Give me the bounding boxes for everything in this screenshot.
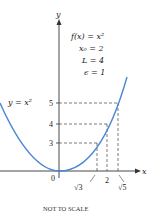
y-tick-3: 3 — [49, 139, 53, 148]
y-tick-5: 5 — [49, 99, 53, 108]
annotation-epsilon: ϵ = 1 — [84, 68, 105, 77]
y-axis-label: y — [55, 10, 61, 19]
sqrt5-leader — [119, 175, 124, 182]
sqrt3-leader — [90, 175, 95, 182]
y-tick-4: 4 — [49, 120, 53, 129]
origin-label: 0 — [51, 174, 55, 183]
x-tick-sqrt5: √5 — [118, 183, 126, 192]
annotation-function: f(x) = x² — [70, 32, 104, 41]
annotation-L: L = 4 — [81, 56, 104, 65]
curve-label: y = x² — [7, 98, 32, 107]
footer-note: NOT TO SCALE — [43, 205, 89, 212]
x-tick-2: 2 — [105, 176, 109, 185]
horizontal-guides — [59, 103, 118, 143]
x-axis-arrow-icon — [135, 169, 141, 174]
x-axis-label: x — [142, 167, 147, 176]
annotation-x0: x₀ = 2 — [79, 44, 104, 53]
y-axis-arrow-icon — [57, 19, 62, 25]
diagram-canvas: y x 0 f(x) = x² x₀ = 2 L = 4 ϵ = 1 y = x… — [0, 0, 151, 220]
parabola-curve — [0, 77, 127, 171]
x-tick-sqrt3: √3 — [74, 183, 82, 192]
